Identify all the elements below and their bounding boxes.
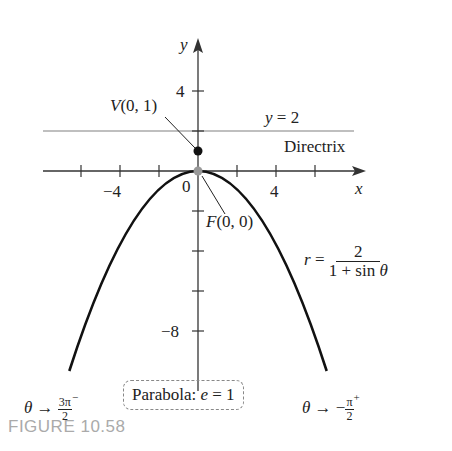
vertex-point (194, 147, 203, 156)
directrix-equation: y = 2 (265, 109, 299, 126)
x-tick-label-neg4: −4 (103, 183, 121, 200)
x-tick-label-0: 0 (182, 178, 191, 195)
focus-point (194, 167, 203, 176)
right-limit-annotation: θ → −π2+ (302, 396, 360, 422)
parabola-eccentricity-badge: Parabola: e = 1 (123, 380, 244, 410)
y-tick-label-neg8: −8 (161, 323, 179, 340)
vertex-label: V(0, 1) (110, 97, 157, 114)
polar-equation: r = 2 1 + sin θ (304, 243, 388, 280)
focus-label: F(0, 0) (206, 213, 253, 230)
figure-caption: FIGURE 10.58 (8, 417, 126, 437)
vertex-leader (165, 117, 195, 148)
focus-leader (202, 176, 225, 214)
x-axis-label: x (355, 180, 363, 197)
y-axis-label: y (180, 36, 188, 53)
y-tick-label-4: 4 (176, 83, 185, 100)
directrix-label: Directrix (284, 138, 345, 155)
x-tick-label-4: 4 (270, 183, 279, 200)
